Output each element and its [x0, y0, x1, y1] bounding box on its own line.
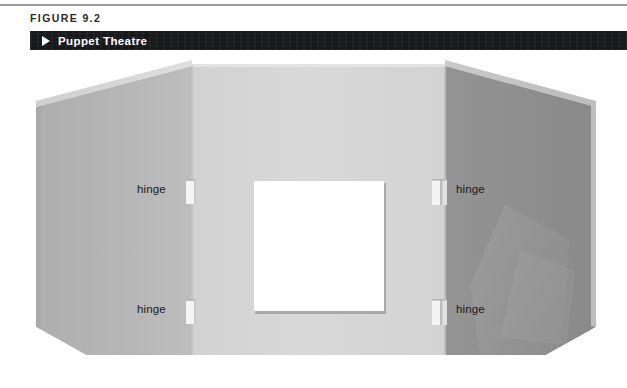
- figure-title: Puppet Theatre: [58, 35, 147, 47]
- figure-title-bar: Puppet Theatre: [30, 31, 627, 50]
- puppet-theatre-illustration: hinge hinge hinge hinge: [0, 55, 627, 388]
- hinge-left-bottom: [186, 299, 196, 324]
- hinge-label-left-bottom: hinge: [137, 303, 166, 315]
- hinge-label-left-top: hinge: [137, 183, 166, 195]
- stage-opening: [254, 181, 384, 311]
- figure-number-label: FIGURE 9.2: [30, 12, 101, 24]
- hinge-left-top: [186, 179, 196, 204]
- puppet-theatre-svg: [0, 55, 627, 388]
- left-wing-face: [36, 66, 192, 355]
- header-divider-rule: [0, 4, 627, 6]
- triangle-right-icon: [42, 36, 50, 46]
- hinge-label-right-bottom: hinge: [456, 303, 485, 315]
- hinge-right-top: [432, 179, 447, 205]
- center-panel-top-highlight: [192, 64, 445, 67]
- right-wing-right-edge: [591, 105, 596, 327]
- hinge-right-bottom: [432, 299, 447, 325]
- hinge-label-right-top: hinge: [456, 183, 485, 195]
- left-wing-left-edge: [36, 106, 41, 329]
- figure-page: FIGURE 9.2 Puppet Theatre: [0, 0, 627, 388]
